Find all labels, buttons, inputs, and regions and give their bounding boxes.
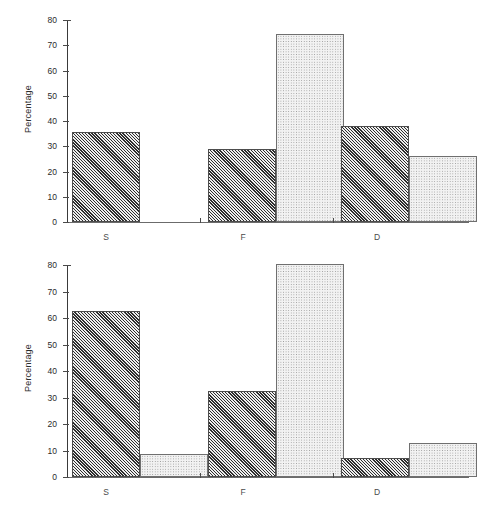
y-tick-label: 60 bbox=[33, 67, 57, 76]
y-tick-label: 50 bbox=[33, 341, 57, 350]
x-axis-line-top bbox=[67, 222, 469, 223]
y-tick bbox=[63, 398, 69, 399]
y-tick bbox=[63, 45, 69, 46]
bar bbox=[409, 156, 477, 222]
y-tick-label: 40 bbox=[33, 367, 57, 376]
bar bbox=[72, 311, 140, 477]
bar bbox=[276, 264, 344, 477]
bar bbox=[140, 454, 208, 477]
x-tick-label: D bbox=[362, 487, 392, 497]
x-tick-label: F bbox=[228, 487, 258, 497]
x-group-separator-tick bbox=[333, 218, 334, 223]
bar bbox=[341, 458, 409, 477]
y-tick bbox=[63, 222, 69, 223]
y-axis-title-top: Percentage bbox=[23, 69, 33, 149]
y-tick bbox=[63, 371, 69, 372]
y-tick bbox=[63, 477, 69, 478]
y-tick-label: 70 bbox=[33, 288, 57, 297]
y-tick bbox=[63, 424, 69, 425]
y-tick-label: 80 bbox=[33, 16, 57, 25]
bar bbox=[208, 149, 276, 222]
y-tick-label: 30 bbox=[33, 394, 57, 403]
y-tick-label: 50 bbox=[33, 92, 57, 101]
bar bbox=[341, 126, 409, 222]
x-group-separator-tick bbox=[200, 218, 201, 223]
y-tick bbox=[63, 20, 71, 21]
x-group-separator-tick bbox=[333, 473, 334, 478]
y-tick-label: 10 bbox=[33, 447, 57, 456]
x-tick-label: S bbox=[91, 232, 121, 242]
y-tick bbox=[63, 197, 69, 198]
y-tick bbox=[63, 146, 69, 147]
y-tick-label: 30 bbox=[33, 142, 57, 151]
chart-top: Percentage 01020304050607080 SFD bbox=[0, 0, 477, 250]
y-tick-label: 0 bbox=[33, 218, 57, 227]
y-tick-label: 20 bbox=[33, 420, 57, 429]
bar bbox=[72, 132, 140, 222]
x-tick-label: S bbox=[91, 487, 121, 497]
bar bbox=[208, 391, 276, 477]
y-tick-label: 60 bbox=[33, 314, 57, 323]
y-tick bbox=[63, 265, 71, 266]
plot-area-top: Percentage 01020304050607080 SFD bbox=[0, 0, 477, 250]
y-tick bbox=[63, 96, 69, 97]
y-tick-label: 80 bbox=[33, 261, 57, 270]
bar bbox=[276, 34, 344, 222]
y-tick-label: 70 bbox=[33, 41, 57, 50]
x-group-separator-tick bbox=[200, 473, 201, 478]
bar bbox=[409, 443, 477, 477]
y-tick-label: 10 bbox=[33, 193, 57, 202]
y-tick-label: 40 bbox=[33, 117, 57, 126]
y-axis-title-bottom: Percentage bbox=[23, 328, 33, 408]
y-tick-label: 0 bbox=[33, 473, 57, 482]
x-tick-label: D bbox=[362, 232, 392, 242]
y-tick bbox=[63, 292, 69, 293]
y-tick bbox=[63, 172, 69, 173]
y-tick bbox=[63, 345, 69, 346]
y-tick-label: 20 bbox=[33, 168, 57, 177]
y-tick bbox=[63, 318, 69, 319]
x-axis-line-bottom bbox=[67, 477, 469, 478]
y-tick bbox=[63, 451, 69, 452]
x-tick-label: F bbox=[228, 232, 258, 242]
chart-bottom: Percentage 01020304050607080 SFD bbox=[0, 250, 477, 511]
plot-area-bottom: Percentage 01020304050607080 SFD bbox=[0, 250, 477, 511]
y-tick bbox=[63, 71, 69, 72]
y-tick bbox=[63, 121, 69, 122]
